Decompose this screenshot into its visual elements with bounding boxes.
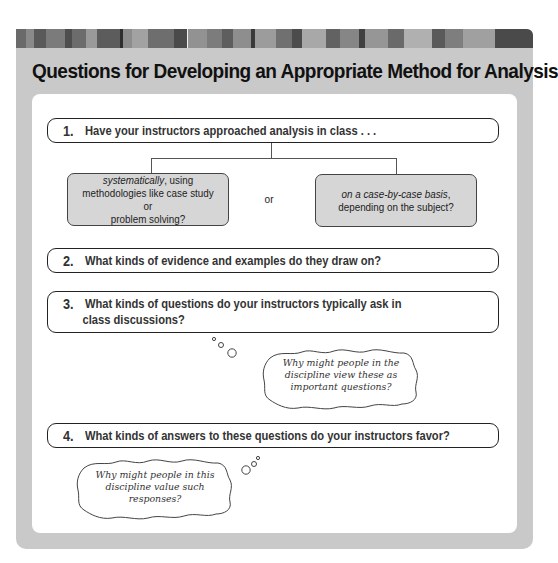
thought-cloud-2-text: Why might people in this discipline valu… [82,469,228,505]
thought-line: responses? [129,493,182,504]
thought-line: Why might people in this [96,469,215,480]
thought-line: discipline value such [105,481,204,492]
